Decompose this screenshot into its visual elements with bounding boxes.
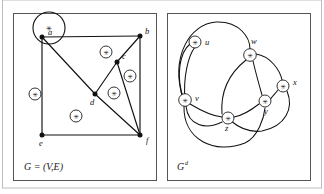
dual-vertex-label-v: v xyxy=(195,93,199,103)
dual-asterisk-y: ✳ xyxy=(262,98,267,105)
vertex-f xyxy=(138,133,143,138)
vertex-label-f: f xyxy=(146,135,150,145)
edge-w-y-inner xyxy=(253,61,262,95)
dual-vertex-label-y: y xyxy=(263,106,268,116)
primal-caption: G = (V,E) xyxy=(24,161,64,173)
edge-a-d xyxy=(42,37,95,94)
face-asterisk-v: ✳ xyxy=(32,91,37,98)
dual-caption-superscript: d xyxy=(185,160,189,166)
vertex-e xyxy=(40,133,45,138)
dual-asterisk-w: ✳ xyxy=(247,52,252,59)
vertex-label-a: a xyxy=(48,27,52,37)
dual-vertex-label-w: w xyxy=(251,36,257,46)
edge-v-w-top-arc xyxy=(179,22,250,99)
dual-asterisk-x: ✳ xyxy=(280,83,285,90)
dual-caption: G d xyxy=(177,160,189,172)
panel-primal: ✳ ✳ ✳ ✳ ✳ ✳ a b c d e xyxy=(14,12,157,181)
edge-v-u-inner xyxy=(185,47,195,100)
edge-w-z-left xyxy=(222,60,246,114)
face-asterisk-w: ✳ xyxy=(103,49,108,56)
vertex-label-e: e xyxy=(39,138,43,148)
primal-face-markers: ✳ ✳ ✳ ✳ ✳ ✳ xyxy=(29,12,136,122)
vertex-d xyxy=(93,92,98,97)
dual-vertex-label-u: u xyxy=(205,37,209,47)
edge-y-z xyxy=(234,104,259,117)
dual-caption-main: G xyxy=(177,161,184,172)
dual-asterisk-z: ✳ xyxy=(225,115,230,122)
edge-v-z-upper xyxy=(190,104,222,117)
edge-x-y xyxy=(270,90,278,100)
edge-b-c xyxy=(117,36,140,62)
edge-w-x-right xyxy=(256,54,282,80)
vertex-label-b: b xyxy=(145,26,149,36)
dual-asterisk-v: ✳ xyxy=(182,97,187,104)
panel-dual: ✳ ✳ ✳ ✳ ✳ ✳ u w x v y z G d xyxy=(168,14,311,181)
primal-vertices xyxy=(40,34,143,138)
edge-a-b xyxy=(42,36,140,37)
face-asterisk-x: ✳ xyxy=(127,73,132,80)
face-asterisk-z: ✳ xyxy=(73,113,78,120)
dual-vertices: ✳ ✳ ✳ ✳ ✳ ✳ xyxy=(179,36,289,124)
vertex-label-c: c xyxy=(122,51,126,61)
dual-vertex-label-x: x xyxy=(292,77,297,87)
dual-asterisk-u: ✳ xyxy=(192,39,197,46)
face-asterisk-y: ✳ xyxy=(111,90,116,97)
vertex-b xyxy=(138,34,143,39)
vertex-a xyxy=(40,35,45,40)
figure-container: ✳ ✳ ✳ ✳ ✳ ✳ a b c d e xyxy=(0,0,324,194)
dual-vertex-label-z: z xyxy=(224,123,229,133)
vertex-label-d: d xyxy=(90,97,95,107)
vertex-c xyxy=(115,60,120,65)
